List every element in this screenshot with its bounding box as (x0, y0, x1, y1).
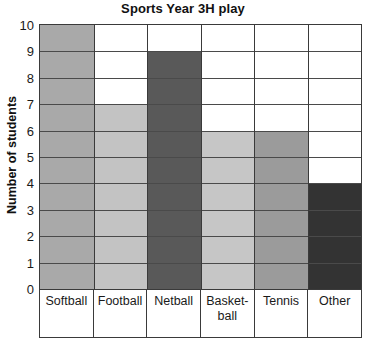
y-axis-tick-label: 3 (4, 204, 34, 217)
y-axis-tick-label: 0 (4, 283, 34, 296)
x-axis-category-row: SoftballFootballNetballBasket-ballTennis… (39, 290, 362, 338)
y-axis-tick-label: 2 (4, 230, 34, 243)
category-label-line: Softball (45, 294, 87, 308)
y-axis-tick-label: 5 (4, 151, 34, 164)
bar-netball (147, 51, 201, 289)
x-axis-category-label: Other (308, 290, 361, 337)
column-separator (254, 25, 255, 289)
category-label-line: Football (98, 294, 142, 308)
column-separator (94, 25, 95, 289)
x-axis-category-label: Softball (40, 290, 94, 337)
x-axis-category-label: Basket-ball (201, 290, 255, 337)
plot-inner (40, 25, 361, 289)
category-label-line: Other (319, 294, 350, 308)
y-axis-tick-label: 8 (4, 72, 34, 85)
bar-chart: Sports Year 3H play Number of students 1… (0, 0, 366, 339)
y-axis-tick-labels: 109876543210 (0, 0, 39, 339)
plot-area (39, 24, 362, 290)
x-axis-category-label: Tennis (255, 290, 309, 337)
chart-title: Sports Year 3H play (0, 1, 366, 17)
x-axis-category-label: Football (94, 290, 148, 337)
column-separator (201, 25, 202, 289)
column-separator (147, 25, 148, 289)
category-label-line: Basket- (206, 294, 248, 308)
y-axis-tick-label: 7 (4, 98, 34, 111)
category-label-line: Netball (154, 294, 193, 308)
y-axis-tick-label: 6 (4, 125, 34, 138)
category-label-line: ball (201, 309, 254, 324)
category-label-line: Tennis (263, 294, 299, 308)
y-axis-tick-label: 9 (4, 45, 34, 58)
column-separator (308, 25, 309, 289)
x-axis-category-label: Netball (147, 290, 201, 337)
y-axis-tick-label: 10 (4, 19, 34, 32)
y-axis-tick-label: 4 (4, 177, 34, 190)
y-axis-tick-label: 1 (4, 257, 34, 270)
